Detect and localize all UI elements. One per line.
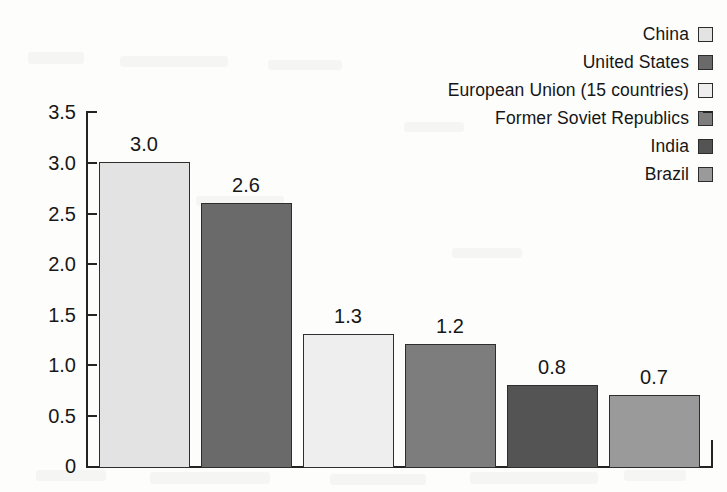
y-tick-label: 2.0 xyxy=(24,253,76,276)
right-frame-stub-top xyxy=(703,111,713,113)
y-tick-mark xyxy=(88,314,97,316)
y-tick-label: 1.5 xyxy=(24,304,76,327)
y-tick-label: 2.5 xyxy=(24,203,76,226)
y-tick-label: 3.5 xyxy=(24,101,76,124)
y-tick-mark xyxy=(88,263,97,265)
y-tick-mark xyxy=(88,415,97,417)
bar-brazil xyxy=(609,395,700,468)
bar-value-label: 3.0 xyxy=(130,133,158,156)
y-tick-label: 3.0 xyxy=(24,152,76,175)
chart-page: China United States European Union (15 c… xyxy=(0,0,727,492)
y-tick-mark xyxy=(88,213,97,215)
bar-india xyxy=(507,385,598,468)
right-frame-stub-bottom xyxy=(711,440,713,468)
bar-united-states xyxy=(201,203,292,468)
y-tick-label: 1.0 xyxy=(24,354,76,377)
y-tick-mark xyxy=(88,364,97,366)
bar-value-label: 0.8 xyxy=(538,356,566,379)
y-tick-label: 0.5 xyxy=(24,405,76,428)
y-tick-mark xyxy=(88,111,97,113)
bar-european-union xyxy=(303,334,394,468)
bar-value-label: 2.6 xyxy=(232,174,260,197)
bar-china xyxy=(99,162,190,468)
bar-value-label: 1.3 xyxy=(334,305,362,328)
plot-area: 3.5 3.0 2.5 2.0 1.5 1.0 0.5 0 3.0 2.6 xyxy=(0,0,727,492)
y-axis-labels: 3.5 3.0 2.5 2.0 1.5 1.0 0.5 0 xyxy=(24,0,76,492)
y-tick-label: 0 xyxy=(24,455,76,478)
bar-value-label: 0.7 xyxy=(640,366,668,389)
y-tick-mark xyxy=(88,162,97,164)
bar-former-soviet-republics xyxy=(405,344,496,468)
bar-value-label: 1.2 xyxy=(436,315,464,338)
